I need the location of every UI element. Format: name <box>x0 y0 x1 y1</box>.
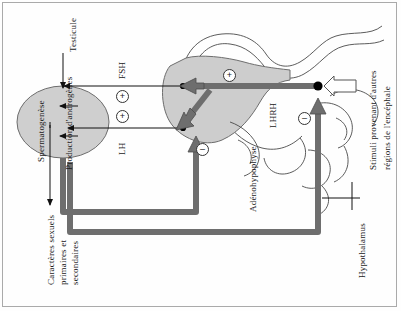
label-production-androgenes: Production d'androgènes <box>64 77 74 170</box>
sign-minus-hypothalamus: – <box>298 112 311 125</box>
sign-minus-hypothalamus-glyph: – <box>299 113 310 124</box>
label-stimuli-line1: Stimuli provenant d'autres <box>368 70 378 170</box>
stimuli-hollow-arrow <box>324 76 356 96</box>
label-gnrh: LHRH <box>268 103 278 128</box>
label-caracteres-line3: secondaires <box>70 241 80 285</box>
label-caracteres-line2: primaires et <box>58 240 68 285</box>
sign-minus-pituitary: – <box>196 143 209 156</box>
node-hypothalamus <box>313 81 322 90</box>
label-hypothalamus: Hypothalamus <box>357 223 367 278</box>
label-spermatogenese: Spermatogenèse <box>36 100 46 162</box>
label-caracteres-line1: Caractères sexuels <box>46 215 56 285</box>
diagram-page: Testicule Spermatogenèse Production d'an… <box>0 0 401 311</box>
label-fsh: FSH <box>117 62 127 79</box>
feedback-hypothalamus-arrowhead <box>310 98 326 114</box>
label-adenohypophyse: Adénohypophyse <box>248 146 258 212</box>
label-testicule: Testicule <box>68 18 78 52</box>
sign-plus-fsh-glyph: + <box>117 91 128 102</box>
sign-plus-gnrh: + <box>223 69 236 82</box>
sign-plus-fsh: + <box>116 90 129 103</box>
sign-plus-lh-glyph: + <box>117 111 128 122</box>
sign-plus-lh: + <box>116 110 129 123</box>
label-stimuli-line2: régions de l'encéphale <box>382 86 392 170</box>
label-lh: LH <box>117 143 127 155</box>
sign-minus-pituitary-glyph: – <box>197 144 208 155</box>
sign-plus-gnrh-glyph: + <box>224 70 235 81</box>
testis-organ <box>17 86 109 158</box>
